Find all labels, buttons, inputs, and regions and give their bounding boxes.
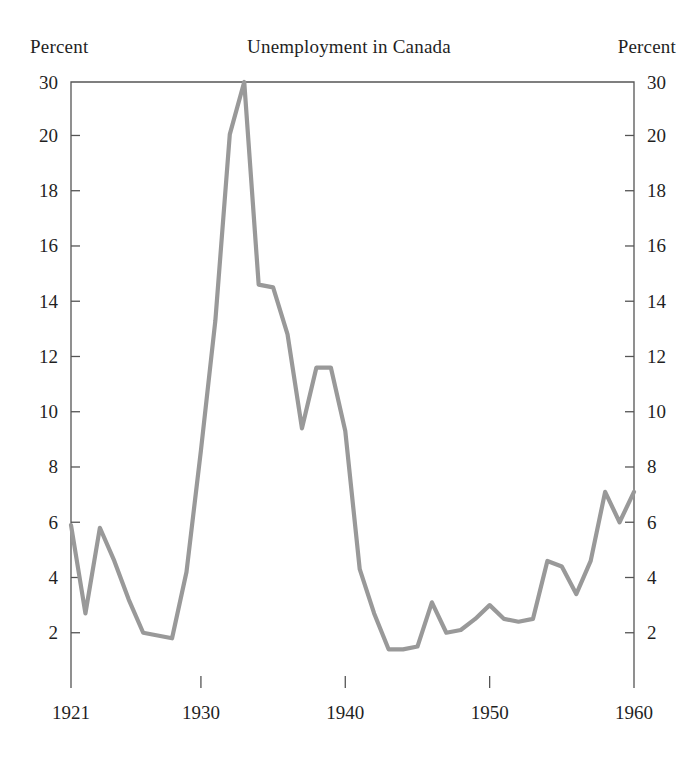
plot-area: 246810121416182030 246810121416182030 19… [0,0,698,768]
x-tick-label-1940: 1940 [326,702,364,723]
y-axis-tick-labels-left: 246810121416182030 [39,72,59,644]
y-tick-label-left-8: 8 [49,456,59,477]
chart-svg: 246810121416182030 246810121416182030 19… [0,0,698,768]
y-tick-label-right-12: 12 [647,346,666,367]
y-tick-label-right-20: 20 [647,125,666,146]
y-tick-label-right-16: 16 [647,235,666,256]
x-tick-label-1960: 1960 [615,702,653,723]
y-tick-label-right-18: 18 [647,180,666,201]
y-tick-label-left-10: 10 [39,401,58,422]
y-tick-label-right-8: 8 [647,456,657,477]
y-tick-label-left-12: 12 [39,346,58,367]
y-tick-label-left-16: 16 [39,235,58,256]
chart-figure: Percent Unemployment in Canada Percent 2… [0,0,698,768]
x-axis-tick-labels: 19211930194019501960 [52,702,653,723]
y-tick-label-right-6: 6 [647,512,657,533]
y-tick-label-left-6: 6 [49,512,59,533]
x-tick-label-1950: 1950 [471,702,509,723]
axis-frame [71,82,634,688]
y-tick-label-left-20: 20 [39,125,58,146]
y-tick-label-left-14: 14 [39,291,59,312]
x-axis-ticks [201,676,490,688]
y-tick-label-left-2: 2 [49,622,59,643]
y-axis-ticks-right [625,135,634,632]
y-tick-label-right-4: 4 [647,567,657,588]
y-tick-label-left-18: 18 [39,180,58,201]
y-tick-label-right-10: 10 [647,401,666,422]
y-axis-tick-labels-right: 246810121416182030 [647,72,667,644]
y-tick-label-right-2: 2 [647,622,657,643]
y-tick-label-left-4: 4 [49,567,59,588]
y-tick-label-right-30: 30 [647,72,666,93]
x-tick-label-1921: 1921 [52,702,90,723]
unemployment-series-line [71,82,634,649]
y-tick-label-left-30: 30 [39,72,58,93]
y-tick-label-right-14: 14 [647,291,667,312]
x-tick-label-1930: 1930 [182,702,220,723]
